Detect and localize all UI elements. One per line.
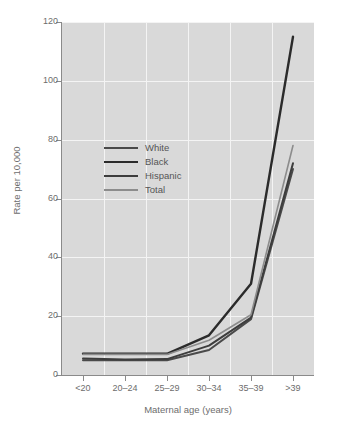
y-axis-tick-label: 60	[24, 194, 58, 203]
legend-swatch-icon	[104, 189, 138, 191]
x-axis-tick	[251, 375, 252, 381]
legend-label: Hispanic	[145, 171, 181, 181]
x-axis-line	[61, 375, 314, 376]
y-axis-tick-label: 0	[24, 370, 58, 379]
legend-item-white: White	[104, 141, 181, 155]
x-axis-tick	[125, 375, 126, 381]
legend-swatch-icon	[104, 147, 138, 149]
legend-item-total: Total	[104, 183, 181, 197]
y-axis-tick-label: 120	[24, 17, 58, 26]
x-axis-tick	[209, 375, 210, 381]
legend-label: Total	[145, 185, 165, 195]
legend-item-hispanic: Hispanic	[104, 169, 181, 183]
y-axis-tick-label: 100	[24, 76, 58, 85]
legend-label: Black	[145, 157, 168, 167]
x-axis-tick	[167, 375, 168, 381]
legend-swatch-icon	[104, 175, 138, 177]
x-axis-tick-label: >39	[267, 383, 319, 393]
series-layer	[62, 22, 314, 375]
x-axis-title: Maternal age (years)	[62, 404, 314, 415]
x-axis-tick	[83, 375, 84, 381]
legend-label: White	[145, 143, 169, 153]
y-axis-tick-label: 80	[24, 135, 58, 144]
series-line-white	[83, 169, 293, 360]
legend-swatch-icon	[104, 161, 138, 163]
legend-item-black: Black	[104, 155, 181, 169]
y-axis-tick-label: 40	[24, 252, 58, 261]
chart-legend: WhiteBlackHispanicTotal	[104, 141, 181, 197]
line-chart-figure: 020406080100120<2020–2425–2930–3435–39>3…	[0, 0, 350, 436]
x-axis-tick	[293, 375, 294, 381]
y-axis-title: Rate per 10,000	[11, 121, 22, 241]
y-axis-tick-label: 20	[24, 311, 58, 320]
